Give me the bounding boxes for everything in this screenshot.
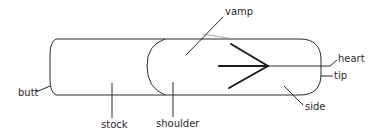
chevron-lower-arm	[229, 66, 268, 88]
label-heart: heart	[338, 53, 365, 64]
tip-end-curve	[300, 39, 321, 95]
label-tip: tip	[334, 70, 347, 81]
chevron-upper-arm	[231, 44, 268, 66]
heart-chevron	[219, 44, 268, 88]
label-vamp: vamp	[225, 6, 253, 17]
label-side: side	[305, 101, 326, 112]
vamp-curve	[203, 34, 233, 39]
label-stock: stock	[101, 119, 128, 130]
shoulder-curve	[147, 39, 165, 95]
diagram-canvas: butt stock shoulder vamp heart tip side	[0, 0, 378, 135]
heart-leader	[268, 60, 337, 66]
leader-lines	[36, 17, 337, 118]
label-shoulder: shoulder	[156, 118, 200, 129]
cylinder-body	[50, 34, 321, 95]
vamp-leader	[186, 17, 223, 55]
label-butt: butt	[18, 87, 39, 98]
butt-end-curve	[50, 39, 56, 95]
